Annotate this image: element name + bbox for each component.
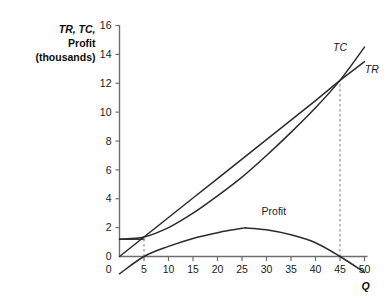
x-tick-label: 30	[261, 263, 273, 275]
y-axis-title-line-3: (thousands)	[35, 51, 95, 63]
chart-canvas: 024681012141605101520253035404550TR, TC,…	[0, 0, 392, 298]
x-tick-label: 15	[187, 263, 199, 275]
series-label-tr: TR	[365, 63, 379, 75]
y-tick-label: 14	[100, 48, 112, 60]
y-tick-label: 4	[106, 192, 112, 204]
y-axis-title-line-1: TR, TC,	[59, 23, 96, 35]
x-tick-label: 45	[334, 263, 346, 275]
y-tick-label: 8	[106, 135, 112, 147]
series-label-tc: TC	[333, 41, 347, 53]
x-tick-label: 40	[310, 263, 322, 275]
series-line-tc	[120, 47, 365, 239]
y-tick-label: 2	[106, 221, 112, 233]
series-label-profit: Profit	[262, 205, 287, 217]
y-tick-label: 12	[100, 77, 112, 89]
x-tick-label: 5	[141, 263, 147, 275]
y-tick-label: 6	[106, 164, 112, 176]
x-tick-label: 25	[236, 263, 248, 275]
x-tick-label: 20	[212, 263, 224, 275]
series-line-tr	[120, 62, 365, 257]
y-axis-title-line-2: Profit	[68, 37, 96, 49]
x-tick-label: 10	[163, 263, 175, 275]
x-tick-label: 0	[106, 263, 112, 275]
x-axis-title: Q	[361, 280, 369, 292]
y-tick-label: 10	[100, 106, 112, 118]
y-tick-label: 16	[100, 19, 112, 31]
x-tick-label: 35	[285, 263, 297, 275]
chart-figure: 024681012141605101520253035404550TR, TC,…	[0, 0, 392, 298]
y-tick-label: 0	[106, 250, 112, 262]
